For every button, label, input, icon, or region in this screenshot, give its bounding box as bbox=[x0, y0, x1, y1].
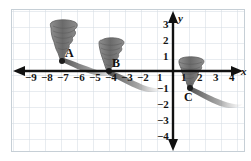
x-tick-label--5: −5 bbox=[89, 72, 101, 83]
y-tick-label-3: 3 bbox=[163, 19, 169, 30]
point-label-b: B bbox=[112, 57, 120, 69]
y-axis-label: y bbox=[178, 13, 183, 24]
y-tick-label--2: −2 bbox=[157, 99, 169, 110]
x-tick-label--2: −2 bbox=[137, 72, 149, 83]
graph-figure: −9 −8 −7 −6 −5 −4 −3 −2 1 1 2 3 4 3 2 1 … bbox=[0, 0, 251, 161]
point-label-c: C bbox=[184, 91, 193, 103]
x-tick-label--6: −6 bbox=[73, 72, 85, 83]
x-tick-label-2: 2 bbox=[197, 72, 203, 83]
x-tick-label--9: −9 bbox=[25, 72, 37, 83]
x-tick-label--4: −4 bbox=[105, 72, 117, 83]
y-tick-label--4: −4 bbox=[157, 131, 169, 142]
y-tick-label-2: 2 bbox=[163, 35, 169, 46]
point-label-a: A bbox=[65, 47, 74, 59]
x-tick-label-1: 1 bbox=[181, 72, 187, 83]
x-tick-label-3: 3 bbox=[213, 72, 219, 83]
y-tick-label-1: 1 bbox=[163, 51, 169, 62]
x-axis-label: x bbox=[241, 66, 247, 77]
x-tick-label--3: −3 bbox=[121, 72, 133, 83]
y-tick-label--3: −3 bbox=[157, 115, 169, 126]
y-tick-label--1: −1 bbox=[157, 83, 169, 94]
x-tick-label--7: −7 bbox=[57, 72, 69, 83]
x-tick-label--8: −8 bbox=[41, 72, 53, 83]
x-tick-label-4: 4 bbox=[229, 72, 235, 83]
